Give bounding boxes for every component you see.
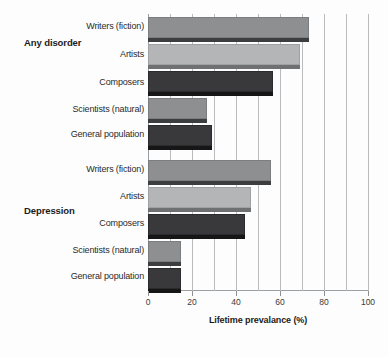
x-tick xyxy=(368,291,369,296)
category-label-any-scientists: Scientists (natural) xyxy=(24,104,148,114)
bar-shadow xyxy=(148,119,207,123)
x-tick-label: 40 xyxy=(231,297,240,307)
x-tick-label: 80 xyxy=(319,297,328,307)
category-label-dep-artists: Artists xyxy=(24,191,148,201)
bar-shadow xyxy=(148,92,273,96)
x-tick-label: 60 xyxy=(275,297,284,307)
bar-shadow xyxy=(148,146,212,150)
bar-any-disorder-scientists-natural xyxy=(148,98,207,123)
bar-face xyxy=(148,125,212,146)
bar-shadow xyxy=(148,289,181,293)
bar-any-disorder-composers xyxy=(148,71,273,96)
x-tick-label: 20 xyxy=(187,297,196,307)
bar-any-disorder-artists xyxy=(148,44,300,69)
bar-depression-scientists-natural xyxy=(148,241,181,266)
bar-depression-composers xyxy=(148,214,245,239)
x-tick xyxy=(192,291,193,296)
category-label-any-general-population: General population xyxy=(24,129,148,139)
bar-shadow xyxy=(148,181,271,185)
x-tick xyxy=(148,291,149,296)
bar-face xyxy=(148,268,181,289)
bar-face xyxy=(148,160,271,181)
bar-any-disorder-writers-fiction xyxy=(148,17,309,42)
chart-figure: Any disorder Depression Writers (fiction… xyxy=(0,0,388,357)
x-tick-label: 0 xyxy=(146,297,151,307)
x-tick xyxy=(280,291,281,296)
gridline xyxy=(368,14,369,291)
bar-any-disorder-general-population xyxy=(148,125,212,150)
plot-area xyxy=(148,14,368,291)
bar-depression-general-population xyxy=(148,268,181,293)
bar-shadow xyxy=(148,65,300,69)
category-label-dep-writers: Writers (fiction) xyxy=(24,164,148,174)
bar-shadow xyxy=(148,235,245,239)
gridline xyxy=(302,14,303,291)
bar-face xyxy=(148,71,273,92)
category-label-any-composers: Composers xyxy=(24,77,148,87)
bar-face xyxy=(148,214,245,235)
x-tick xyxy=(236,291,237,296)
bar-face xyxy=(148,98,207,119)
category-label-any-writers: Writers (fiction) xyxy=(24,21,148,31)
bar-face xyxy=(148,187,251,208)
x-tick-label: 100 xyxy=(361,297,375,307)
bar-face xyxy=(148,17,309,38)
x-axis-title: Lifetime prevalance (%) xyxy=(148,315,368,325)
bar-shadow xyxy=(148,38,309,42)
group-heading-any-disorder: Any disorder xyxy=(24,37,84,48)
category-label-dep-composers: Composers xyxy=(24,218,148,228)
x-tick xyxy=(324,291,325,296)
gridline xyxy=(346,14,347,291)
group-heading-depression: Depression xyxy=(24,205,96,216)
bar-face xyxy=(148,241,181,262)
bar-face xyxy=(148,44,300,65)
gridline xyxy=(324,14,325,291)
category-label-dep-scientists: Scientists (natural) xyxy=(24,245,148,255)
bar-shadow xyxy=(148,208,251,212)
bar-depression-artists xyxy=(148,187,251,212)
bar-depression-writers-fiction xyxy=(148,160,271,185)
category-label-dep-general-population: General population xyxy=(24,271,148,281)
category-label-any-artists: Artists xyxy=(24,49,148,59)
bar-shadow xyxy=(148,262,181,266)
